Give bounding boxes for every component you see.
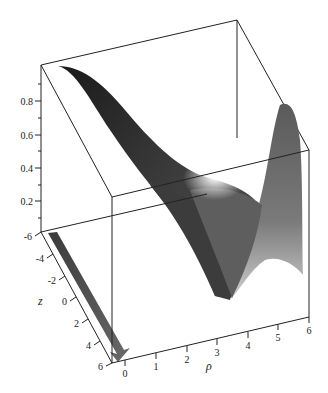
rho-tick-label: 5 — [276, 332, 281, 343]
vertical-axis: 0.2 0.4 0.6 0.8 — [21, 65, 42, 232]
rho-axis: 0 1 2 3 4 5 6 ρ — [112, 317, 312, 379]
vertical-tick-label: 0.4 — [21, 163, 34, 174]
rho-tick-label: 1 — [154, 361, 159, 372]
z-axis-label: z — [37, 294, 43, 308]
z-tick-label: -2 — [48, 275, 56, 286]
vertical-tick-label: 0.6 — [21, 130, 34, 141]
rho-tick-label: 6 — [307, 325, 312, 336]
z-tick-label: 6 — [98, 361, 103, 372]
surface-plot: 0.2 0.4 0.6 0.8 -6 -4 -2 0 2 4 6 z 0 1 2 — [0, 0, 328, 393]
surface — [58, 66, 303, 307]
z-tick-label: 4 — [86, 340, 91, 351]
rho-tick-label: 0 — [123, 368, 128, 379]
z-tick-label: -4 — [36, 253, 44, 264]
rho-tick-label: 2 — [185, 354, 190, 365]
rho-axis-label: ρ — [205, 359, 212, 373]
vertical-tick-label: 0.8 — [21, 96, 34, 107]
z-tick-label: -6 — [24, 231, 32, 242]
z-tick-label: 2 — [74, 318, 79, 329]
vertical-tick-label: 0.2 — [21, 196, 34, 207]
rho-tick-label: 4 — [246, 340, 251, 351]
rho-tick-label: 3 — [215, 347, 220, 358]
z-tick-label: 0 — [62, 296, 67, 307]
